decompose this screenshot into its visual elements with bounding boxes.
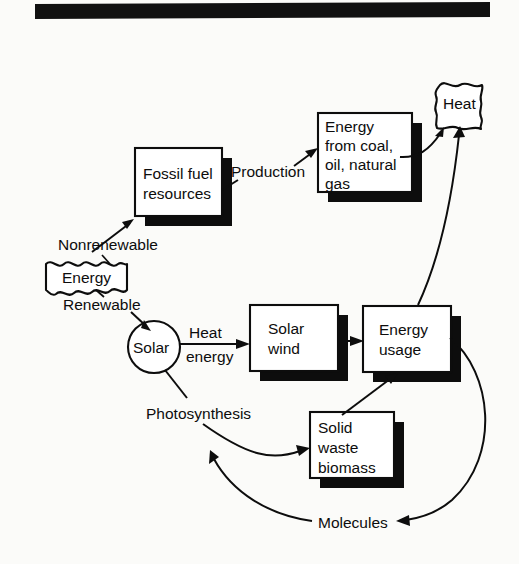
node-energy-usage: Energy usage: [363, 306, 461, 382]
solar-wind-line1: Solar: [268, 320, 304, 337]
edge-molecules-to-photosynthesis: [209, 450, 312, 521]
solar-wind-box: [250, 305, 338, 371]
energy-from-fuels-line3: oil, natural: [325, 156, 397, 173]
heat-energy-label-line2: energy: [186, 348, 234, 365]
energy-usage-box: [363, 306, 451, 372]
diagram-page: Energy Fossil fuel resources Energy from…: [0, 0, 519, 564]
solar-label: Solar: [133, 339, 169, 356]
fossil-fuel-label-line1: Fossil fuel: [143, 165, 213, 182]
solid-waste-line1: Solid: [318, 419, 352, 436]
waste-to-usage-line: [342, 379, 390, 415]
edge-production: Production: [222, 148, 318, 190]
usage-to-heat-curve: [418, 135, 459, 305]
molecules-label: Molecules: [318, 514, 388, 531]
node-solid-waste: Solid waste biomass: [310, 412, 404, 488]
energy-from-fuels-line1: Energy: [325, 118, 374, 135]
energy-from-fuels-line4: gas: [325, 175, 350, 192]
node-heat: Heat: [435, 83, 482, 129]
node-energy: Energy: [46, 262, 127, 295]
top-black-bar: [35, 2, 490, 19]
edge-photosynthesis: Photosynthesis: [146, 370, 310, 456]
edge-heat-energy: Heat energy: [180, 324, 250, 365]
renewable-label: Renewable: [63, 296, 141, 313]
heat-energy-arrowhead: [236, 339, 250, 349]
edge-usage-to-heat: [418, 126, 465, 305]
solid-waste-line3: biomass: [318, 459, 376, 476]
photosynthesis-label: Photosynthesis: [146, 405, 251, 422]
energy-usage-line1: Energy: [379, 321, 428, 338]
node-fossil-fuel: Fossil fuel resources: [135, 148, 232, 226]
molecules-to-photosynthesis-curve: [214, 459, 312, 521]
heat-energy-label-line1: Heat: [189, 324, 222, 341]
heat-label: Heat: [443, 95, 476, 112]
energy-from-fuels-line2: from coal,: [325, 137, 393, 154]
solid-waste-line2: waste: [317, 439, 359, 456]
photosynthesis-curve: [203, 424, 300, 456]
edge-nonrenewable: Nonrenewable: [58, 219, 158, 253]
fossil-fuel-box: [135, 148, 222, 216]
photosynthesis-arrowhead: [296, 445, 310, 456]
fossil-fuel-label-line2: resources: [143, 185, 211, 202]
energy-label: Energy: [62, 269, 111, 286]
edge-waste-to-usage: [342, 373, 398, 415]
energy-usage-line2: usage: [379, 341, 421, 358]
energy-flow-diagram: Energy Fossil fuel resources Energy from…: [0, 0, 519, 564]
solarwind-to-usage-arrowhead: [350, 336, 364, 346]
usage-to-molecules-arrowhead: [396, 515, 410, 526]
photosynthesis-line-upper: [165, 370, 187, 398]
node-solar: Solar: [128, 321, 180, 373]
solar-wind-line2: wind: [267, 340, 300, 357]
node-solar-wind: Solar wind: [250, 305, 348, 381]
nonrenewable-label: Nonrenewable: [58, 236, 158, 253]
molecules-to-photosynthesis-arrowhead: [209, 450, 219, 464]
